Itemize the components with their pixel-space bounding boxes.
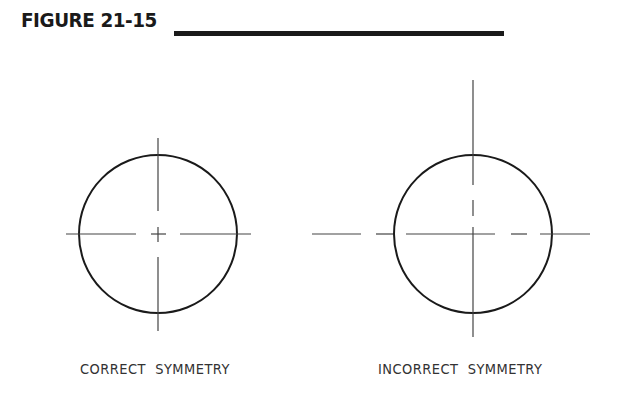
correct-symmetry-figure [66,138,251,331]
incorrect-symmetry-figure [312,80,590,337]
incorrect-symmetry-caption: INCORRECT SYMMETRY [378,361,542,377]
correct-centerlines [66,138,251,331]
symmetry-drawing [0,0,625,409]
correct-symmetry-caption: CORRECT SYMMETRY [80,361,230,377]
